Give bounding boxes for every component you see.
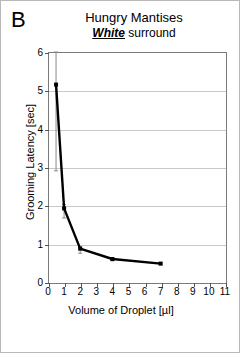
figure-panel: B Hungry Mantises White surround 0123456… [0, 0, 240, 353]
y-gridline [49, 130, 226, 131]
y-tick-mark [45, 91, 49, 92]
plot-area: 0123456 [48, 52, 227, 284]
x-axis-label: Volume of Droplet [µl] [1, 304, 240, 316]
y-gridline [49, 168, 226, 169]
y-tick-mark [45, 130, 49, 131]
x-axis-tick-labels: 01234567891011 [48, 287, 228, 301]
y-tick-mark [45, 206, 49, 207]
y-gridline [49, 91, 226, 92]
y-gridline [49, 245, 226, 246]
y-gridline [49, 206, 226, 207]
plot-wrapper: 0123456 01234567891011 Volume of Droplet… [1, 1, 240, 353]
y-tick-mark [45, 245, 49, 246]
x-tick-label: 11 [216, 287, 234, 297]
y-axis-label: Grooming Latency [sec] [24, 82, 36, 242]
y-tick-mark [45, 168, 49, 169]
y-tick-label: 6 [21, 48, 43, 58]
y-tick-mark [45, 53, 49, 54]
